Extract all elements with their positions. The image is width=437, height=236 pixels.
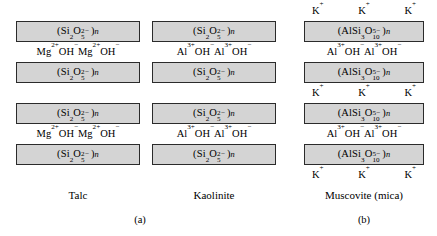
- kaolinite-interlayer-1: Al3+OH−Al3+OH−: [152, 47, 276, 58]
- kaolinite-silicate-sheet-1: (Si2O2−5)n: [152, 21, 276, 42]
- potassium-ion: K+: [358, 88, 370, 99]
- muscovite-interlayer-1: Al3+OH−Al3+OH−: [304, 47, 424, 58]
- clay-mineral-structure-diagram: (Si2O2−5)n Mg2+OH−Mg2+OH− (Si2O2−5)n (Si…: [0, 0, 437, 236]
- silicate-sheet-formula: (Si2O2−5)n: [193, 108, 235, 119]
- panel-caption-a: (a): [90, 215, 190, 226]
- silicate-sheet-formula: (Si2O2−5)n: [193, 67, 235, 78]
- panel-caption-b: (b): [314, 215, 414, 226]
- muscovite-aluminosilicate-sheet-4: (AlSi3O5−10)n: [304, 144, 424, 165]
- muscovite-aluminosilicate-sheet-3: (AlSi3O5−10)n: [304, 103, 424, 124]
- kaolinite-interlayer-2: Al3+OH−Al3+OH−: [152, 129, 276, 140]
- silicate-sheet-formula: (Si2O2−5)n: [57, 26, 99, 37]
- talc-interlayer-2: Mg2+OH−Mg2+OH−: [16, 129, 140, 140]
- kaolinite-silicate-sheet-4: (Si2O2−5)n: [152, 144, 276, 165]
- aluminum-hydroxide-formula: Al3+OH−Al3+OH−: [327, 46, 402, 57]
- talc-silicate-sheet-3: (Si2O2−5)n: [16, 103, 140, 124]
- silicate-sheet-formula: (Si2O2−5)n: [193, 149, 235, 160]
- silicate-sheet-formula: (Si2O2−5)n: [57, 149, 99, 160]
- kaolinite-silicate-sheet-2: (Si2O2−5)n: [152, 62, 276, 83]
- potassium-ion: K+: [358, 6, 370, 17]
- kaolinite-silicate-sheet-3: (Si2O2−5)n: [152, 103, 276, 124]
- potassium-ion: K+: [312, 6, 324, 17]
- muscovite-aluminosilicate-sheet-1: (AlSi3O5−10)n: [304, 21, 424, 42]
- muscovite-potassium-row-2: K+ K+ K+: [312, 88, 416, 99]
- potassium-ion: K+: [404, 6, 416, 17]
- aluminosilicate-sheet-formula: (AlSi3O5−10)n: [338, 26, 391, 37]
- muscovite-potassium-row-1: K+ K+ K+: [312, 6, 416, 17]
- magnesium-hydroxide-formula: Mg2+OH−Mg2+OH−: [37, 128, 120, 139]
- mineral-label-kaolinite: Kaolinite: [152, 190, 276, 201]
- aluminosilicate-sheet-formula: (AlSi3O5−10)n: [338, 149, 391, 160]
- magnesium-hydroxide-formula: Mg2+OH−Mg2+OH−: [37, 46, 120, 57]
- mineral-label-muscovite: Muscovite (mica): [304, 190, 424, 201]
- talc-interlayer-1: Mg2+OH−Mg2+OH−: [16, 47, 140, 58]
- muscovite-aluminosilicate-sheet-2: (AlSi3O5−10)n: [304, 62, 424, 83]
- silicate-sheet-formula: (Si2O2−5)n: [193, 26, 235, 37]
- silicate-sheet-formula: (Si2O2−5)n: [57, 108, 99, 119]
- aluminum-hydroxide-formula: Al3+OH−Al3+OH−: [177, 46, 252, 57]
- aluminum-hydroxide-formula: Al3+OH−Al3+OH−: [177, 128, 252, 139]
- talc-silicate-sheet-4: (Si2O2−5)n: [16, 144, 140, 165]
- talc-silicate-sheet-1: (Si2O2−5)n: [16, 21, 140, 42]
- aluminum-hydroxide-formula: Al3+OH−Al3+OH−: [327, 128, 402, 139]
- aluminosilicate-sheet-formula: (AlSi3O5−10)n: [338, 108, 391, 119]
- muscovite-potassium-row-3: K+ K+ K+: [312, 170, 416, 181]
- potassium-ion: K+: [404, 88, 416, 99]
- potassium-ion: K+: [312, 170, 324, 181]
- potassium-ion: K+: [312, 88, 324, 99]
- aluminosilicate-sheet-formula: (AlSi3O5−10)n: [338, 67, 391, 78]
- silicate-sheet-formula: (Si2O2−5)n: [57, 67, 99, 78]
- potassium-ion: K+: [404, 170, 416, 181]
- muscovite-interlayer-2: Al3+OH−Al3+OH−: [304, 129, 424, 140]
- mineral-label-talc: Talc: [16, 190, 140, 201]
- talc-silicate-sheet-2: (Si2O2−5)n: [16, 62, 140, 83]
- potassium-ion: K+: [358, 170, 370, 181]
